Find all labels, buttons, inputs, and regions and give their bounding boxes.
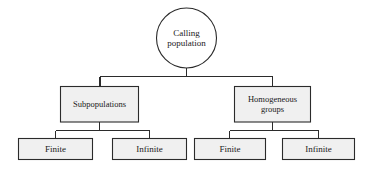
node-shape-left-infinite	[113, 139, 187, 160]
node-shape-left-finite	[19, 139, 93, 160]
node-shape-homogeneous-groups	[235, 87, 311, 123]
node-shape-subpopulations	[61, 87, 139, 123]
diagram-graphics	[0, 0, 372, 170]
node-shape-calling-population	[157, 8, 217, 68]
diagram-canvas: Calling population Subpopulations Homoge…	[0, 0, 372, 170]
node-shape-right-infinite	[283, 139, 355, 160]
node-shapes	[19, 8, 355, 160]
node-shape-right-finite	[195, 139, 266, 160]
